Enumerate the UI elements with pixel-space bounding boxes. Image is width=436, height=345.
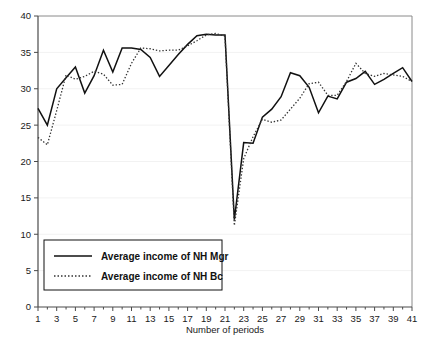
- x-tick-label: 27: [276, 313, 287, 324]
- x-tick-label: 19: [201, 313, 212, 324]
- x-tick-label: 21: [220, 313, 231, 324]
- y-tick-label: 40: [20, 10, 31, 21]
- y-axis-ticks: 0510152025303540: [20, 10, 38, 312]
- x-tick-label: 5: [73, 313, 78, 324]
- line-chart: 0510152025303540 13579111315171921232527…: [0, 0, 436, 345]
- x-tick-label: 35: [351, 313, 362, 324]
- y-tick-label: 35: [20, 47, 31, 58]
- legend-label-mgr: Average income of NH Mgr: [101, 251, 229, 262]
- y-tick-label: 30: [20, 83, 31, 94]
- x-tick-label: 39: [388, 313, 399, 324]
- x-tick-label: 23: [238, 313, 249, 324]
- x-tick-label: 25: [257, 313, 268, 324]
- x-axis-ticks: 1357911131517192123252729313335373941: [35, 307, 417, 324]
- x-tick-label: 13: [145, 313, 156, 324]
- x-tick-label: 1: [35, 313, 40, 324]
- legend-box: [44, 240, 222, 290]
- x-tick-label: 15: [164, 313, 175, 324]
- x-tick-label: 3: [54, 313, 59, 324]
- y-tick-label: 5: [26, 265, 31, 276]
- x-tick-label: 29: [295, 313, 306, 324]
- x-tick-label: 31: [313, 313, 324, 324]
- x-tick-label: 41: [407, 313, 418, 324]
- y-tick-label: 25: [20, 120, 31, 131]
- x-tick-label: 17: [182, 313, 193, 324]
- x-tick-label: 37: [369, 313, 380, 324]
- x-tick-label: 11: [127, 313, 137, 324]
- y-tick-label: 20: [20, 156, 31, 167]
- y-tick-label: 15: [20, 192, 31, 203]
- chart-legend: Average income of NH Mgr Average income …: [44, 240, 229, 290]
- legend-label-bc: Average income of NH Bc: [101, 271, 223, 282]
- x-axis-title: Number of periods: [186, 324, 264, 335]
- x-tick-label: 7: [91, 313, 96, 324]
- chart-container: 0510152025303540 13579111315171921232527…: [0, 0, 436, 345]
- x-tick-label: 9: [110, 313, 115, 324]
- x-tick-label: 33: [332, 313, 343, 324]
- y-tick-label: 0: [26, 301, 31, 312]
- y-tick-label: 10: [20, 229, 31, 240]
